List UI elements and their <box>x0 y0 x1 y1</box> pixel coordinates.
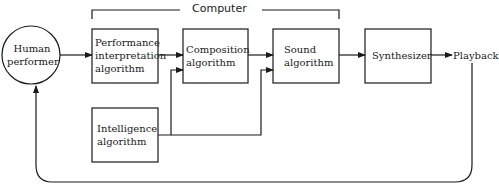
human-performer-label: Human performer <box>7 42 57 68</box>
sound-algorithm-label: Sound algorithm <box>284 43 334 69</box>
playback-label: Playback <box>453 49 499 62</box>
composition-algorithm-label: Composition algorithm <box>186 43 250 69</box>
computer-label: Computer <box>192 2 247 15</box>
synthesizer-label: Synthesizer <box>372 49 432 62</box>
connector-intelligence-to-composition <box>158 70 183 135</box>
connector-intelligence-to-sound <box>171 70 273 135</box>
performance-interpretation-label: Performance interpretation algorithm <box>95 36 166 75</box>
intelligence-algorithm-label: Intelligence algorithm <box>97 122 157 148</box>
